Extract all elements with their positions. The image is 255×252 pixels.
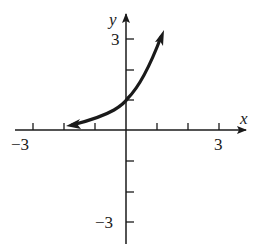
x-tick-label-3: 3	[214, 135, 223, 154]
exponential-curve	[72, 37, 161, 125]
y-axis-label: y	[107, 10, 117, 29]
graph: y x 3 −3 −3 3	[0, 0, 255, 252]
x-axis-label: x	[239, 109, 248, 128]
y-tick-label-3: 3	[111, 30, 120, 49]
y-tick-label-neg3: −3	[95, 213, 113, 232]
x-tick-label-neg3: −3	[11, 135, 29, 154]
